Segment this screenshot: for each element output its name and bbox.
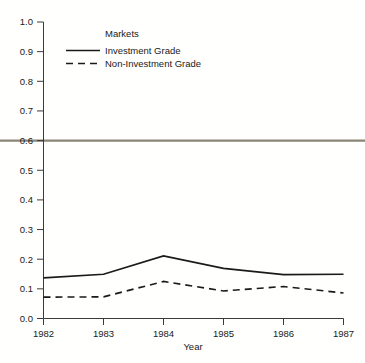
x-tick-label: 1982 <box>33 328 54 339</box>
x-tick-label: 1984 <box>153 328 174 339</box>
y-tick-label: 0.9 <box>20 46 33 57</box>
x-axis-title: Year <box>183 341 202 352</box>
y-tick-label: 0.7 <box>20 105 33 116</box>
legend-label-non-investment-grade: Non-Investment Grade <box>105 58 201 69</box>
y-tick-label: 0.4 <box>20 194 33 205</box>
y-tick-label: 0.8 <box>20 76 33 87</box>
x-tick-label: 1983 <box>93 328 114 339</box>
y-tick-label: 0.0 <box>20 313 33 324</box>
y-tick-label: 0.6 <box>20 135 33 146</box>
y-tick-label: 0.3 <box>20 224 33 235</box>
legend-label-investment-grade: Investment Grade <box>105 45 181 56</box>
legend-title: Markets <box>105 28 139 39</box>
y-tick-label: 1.0 <box>20 16 33 27</box>
chart-background <box>0 0 365 363</box>
x-tick-label: 1987 <box>333 328 354 339</box>
y-tick-label: 0.5 <box>20 165 33 176</box>
y-tick-label: 0.2 <box>20 254 33 265</box>
chart-figure: 0.00.10.20.30.40.50.60.70.80.91.0 198219… <box>0 0 365 363</box>
x-tick-label: 1985 <box>213 328 234 339</box>
y-tick-label: 0.1 <box>20 283 33 294</box>
x-tick-label: 1986 <box>273 328 294 339</box>
line-chart: 0.00.10.20.30.40.50.60.70.80.91.0 198219… <box>0 0 365 363</box>
